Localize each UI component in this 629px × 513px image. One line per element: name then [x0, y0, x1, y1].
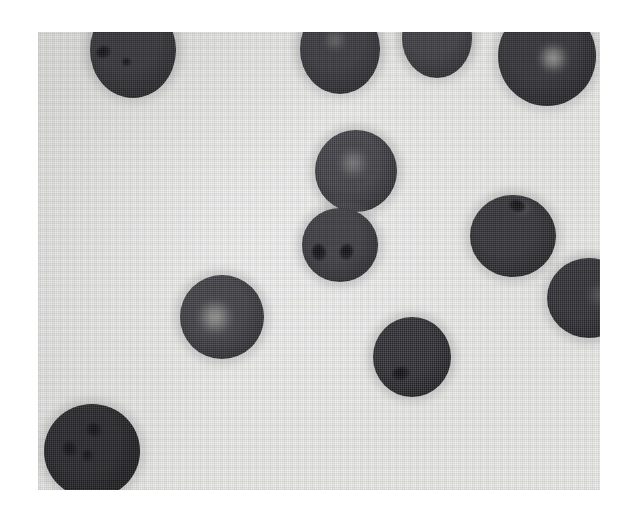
micrograph-plate [38, 32, 600, 490]
cell-granule [82, 450, 93, 461]
cell-body [315, 130, 397, 212]
specimen-cell [44, 404, 140, 490]
specimen-cell [302, 208, 378, 282]
cell-body [373, 317, 451, 397]
specimen-cell [180, 275, 264, 359]
specimen-cell [470, 195, 556, 277]
cell-body [44, 404, 140, 490]
cell-granule [121, 57, 131, 66]
specimen-cell [547, 258, 600, 338]
specimen-cell [315, 130, 397, 212]
specimen-cell [498, 32, 596, 106]
specimen-cell [300, 32, 380, 94]
cell-body [180, 275, 264, 359]
specimen-cell [373, 317, 451, 397]
specimen-cell [402, 32, 472, 78]
specimen-cell [90, 32, 176, 98]
micrograph-page [0, 0, 629, 513]
